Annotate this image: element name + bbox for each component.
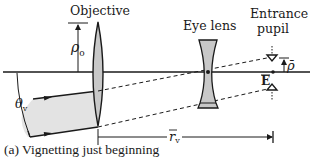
theta-v-symbol: θv bbox=[15, 96, 28, 113]
objective-label: Objective bbox=[70, 3, 130, 18]
vignetting-diagram: Objective Eye lens Entrance pupil ρo ρ̄ … bbox=[0, 0, 310, 161]
e-bar-symbol: E bbox=[261, 74, 270, 88]
figure-caption: (a) Vignetting just beginning bbox=[4, 142, 159, 158]
incident-beam bbox=[22, 91, 98, 137]
rho-o-symbol: ρo bbox=[70, 39, 85, 58]
pupil-center-dot bbox=[271, 70, 275, 74]
upper-chief-ray-dashed bbox=[98, 57, 272, 91]
eye-lens-center-dot bbox=[206, 70, 210, 74]
r-v-symbol: rv bbox=[169, 129, 180, 145]
entrance-pupil-label-line2: pupil bbox=[257, 21, 289, 36]
rho-bar-symbol: ρ̄ bbox=[286, 58, 295, 73]
eye-lens-label: Eye lens bbox=[183, 18, 236, 33]
pupil-marker-top bbox=[267, 55, 277, 61]
entrance-pupil-label-line1: Entrance bbox=[250, 6, 308, 21]
lower-marginal-ray-dashed bbox=[98, 88, 272, 127]
